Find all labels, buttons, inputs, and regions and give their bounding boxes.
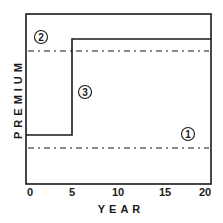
x-tick-15: 15: [159, 186, 171, 198]
x-tick-20: 20: [199, 186, 211, 198]
series-3-step-line: [26, 39, 211, 135]
premium-chart: 2 3 1 0 5 10 15 20 YEAR PREMIUM: [0, 0, 223, 223]
annotation-3-text: 3: [82, 87, 88, 98]
x-tick-5: 5: [69, 186, 75, 198]
x-axis-label: YEAR: [98, 203, 145, 215]
annotation-circle-3: 3: [79, 86, 92, 99]
x-tick-0: 0: [27, 186, 33, 198]
x-tick-10: 10: [112, 186, 124, 198]
annotation-circle-2: 2: [35, 31, 48, 44]
annotation-1-text: 1: [185, 129, 191, 140]
annotation-circle-1: 1: [182, 128, 195, 141]
y-axis-label: PREMIUM: [12, 59, 24, 139]
annotation-2-text: 2: [38, 32, 44, 43]
